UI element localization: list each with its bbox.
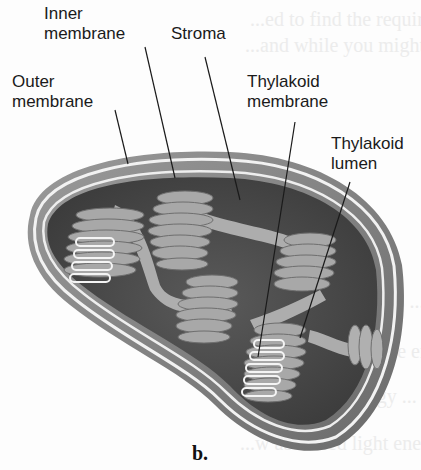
label-stroma: Stroma: [171, 24, 226, 44]
chloroplast-illustration: [0, 0, 421, 470]
panel-label: b.: [192, 442, 208, 465]
label-outer-membrane: Outer membrane: [12, 72, 93, 112]
granum: [348, 325, 383, 369]
label-thylakoid-membrane: Thylakoid membrane: [247, 72, 328, 112]
label-thylakoid-lumen: Thylakoid lumen: [331, 134, 404, 174]
label-inner-membrane: Inner membrane: [44, 4, 125, 44]
